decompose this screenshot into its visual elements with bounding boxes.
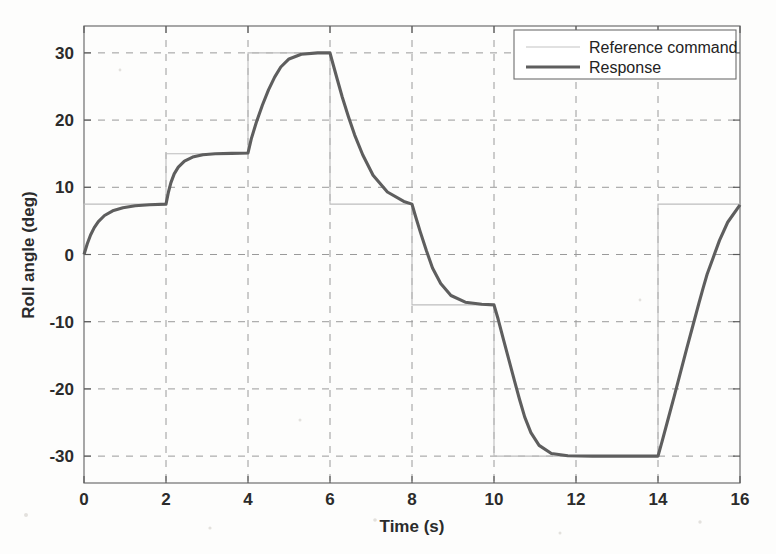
scan-speckles <box>24 69 702 535</box>
legend-label-reference-command: Reference command <box>589 39 738 56</box>
x-tick-label: 6 <box>325 490 334 509</box>
y-tick-label: -20 <box>49 380 74 399</box>
roll-angle-plot: 0246810121416 -30-20-100102030 Time (s) … <box>0 0 776 554</box>
x-tick-label: 14 <box>649 490 668 509</box>
y-tick-label: -30 <box>49 447 74 466</box>
x-tick-label: 16 <box>731 490 750 509</box>
legend-label-response: Response <box>589 59 661 76</box>
y-tick-label: 30 <box>55 44 74 63</box>
legend: Reference command Response <box>514 30 738 79</box>
y-axis-tick-labels: -30-20-100102030 <box>49 44 74 466</box>
x-tick-label: 10 <box>485 490 504 509</box>
y-tick-label: 10 <box>55 178 74 197</box>
x-axis-tick-labels: 0246810121416 <box>79 490 749 509</box>
y-tick-label: -10 <box>49 313 74 332</box>
y-tick-label: 20 <box>55 111 74 130</box>
x-tick-label: 0 <box>79 490 88 509</box>
y-tick-label: 0 <box>65 246 74 265</box>
x-tick-label: 2 <box>161 490 170 509</box>
y-axis-title: Roll angle (deg) <box>19 191 38 319</box>
x-tick-label: 8 <box>407 490 416 509</box>
x-tick-label: 12 <box>567 490 586 509</box>
x-axis-title: Time (s) <box>380 517 445 536</box>
chart-figure: 0246810121416 -30-20-100102030 Time (s) … <box>0 0 776 554</box>
x-tick-label: 4 <box>243 490 253 509</box>
